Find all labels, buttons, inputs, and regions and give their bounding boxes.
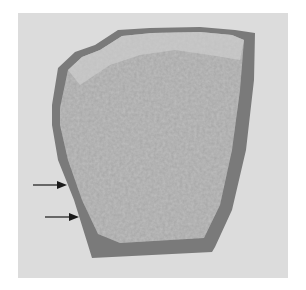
specimen-figure — [0, 0, 306, 290]
specimen-texture — [60, 32, 244, 243]
arrow-right-icon — [33, 181, 67, 189]
arrow-right-icon — [45, 213, 79, 221]
